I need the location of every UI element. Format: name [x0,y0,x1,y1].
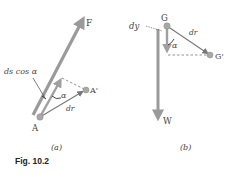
ds-cos-alpha-label: ds cos α [4,67,38,76]
panel-a: F α dr ds cos α A A' (a) [4,18,98,152]
dy-label: dy [129,21,139,31]
point-a [37,114,43,120]
force-f-arrow [33,21,82,115]
ds-cos-alpha-leader [33,78,45,98]
alpha-label-a: α [61,91,67,100]
dr-label-a: dr [66,104,75,113]
point-g [164,23,170,29]
force-f-label: F [86,18,92,28]
alpha-label-b: α [172,41,178,50]
work-diagram: F α dr ds cos α A A' (a) W [0,0,236,177]
panel-b: W α dr dy G G' (b) [129,13,224,152]
point-g-label: G [161,13,168,23]
point-a-prime [83,87,89,93]
point-a-prime-label: A' [89,86,98,95]
dy-leader [146,26,162,31]
point-g-prime [207,52,213,58]
point-g-prime-label: G' [215,52,224,61]
dr-label-b: dr [189,28,198,37]
figure-caption: Fig. 10.2 [15,156,49,166]
panel-a-label: (a) [51,143,62,152]
angle-arc-a [52,96,61,99]
panel-b-label: (b) [180,143,191,152]
projection-dashed-line [62,78,86,90]
weight-w-label: W [163,116,172,126]
point-a-label: A [31,123,39,133]
